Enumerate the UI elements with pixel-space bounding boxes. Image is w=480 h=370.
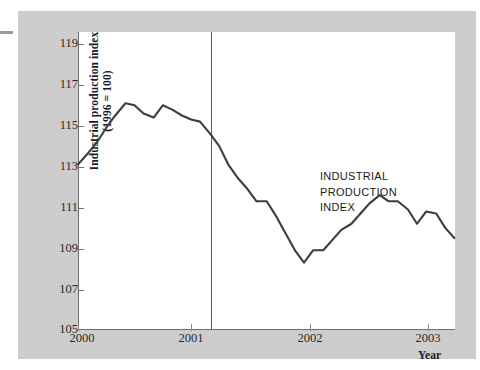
figure-container: Industrial production index (1996 = 100)… [0, 0, 480, 370]
series-plot-svg [0, 0, 480, 370]
industrial-production-index-line [78, 103, 454, 262]
